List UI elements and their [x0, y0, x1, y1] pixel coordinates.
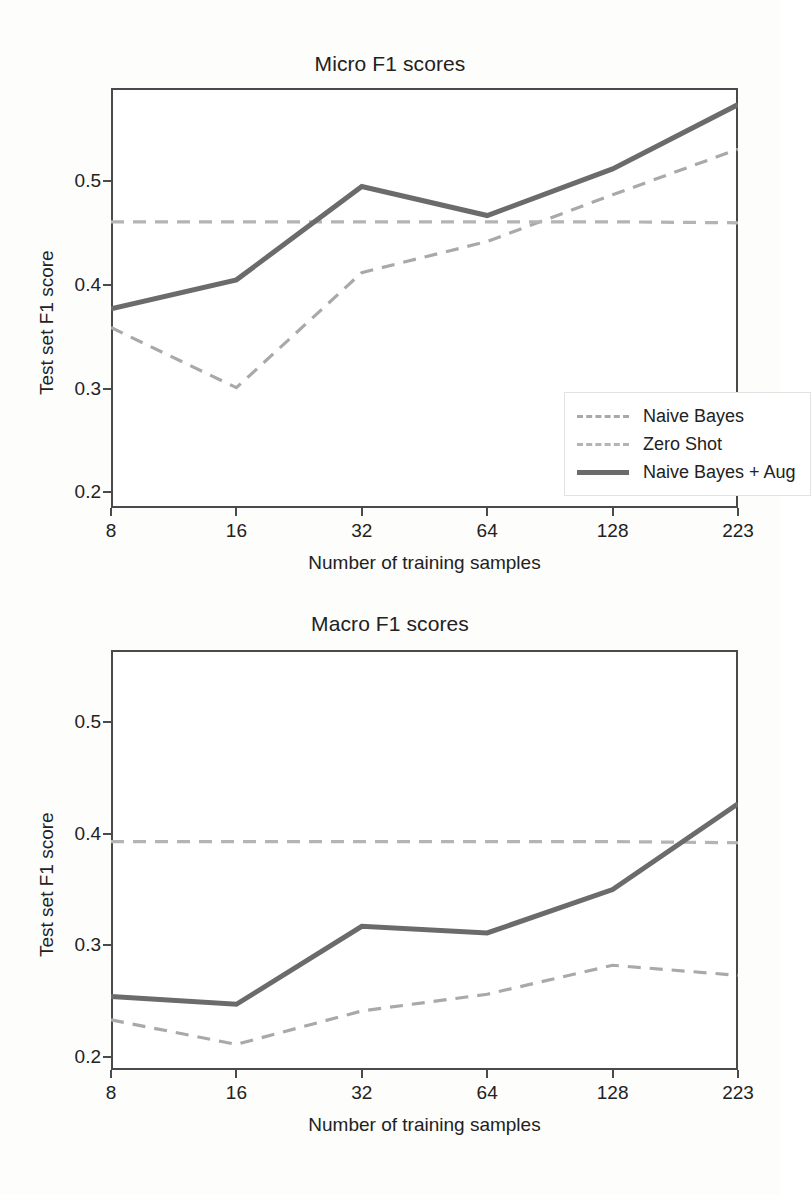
- x-tick-label-macro: 128: [597, 1082, 629, 1104]
- x-tick-label-micro: 223: [722, 520, 754, 542]
- legend-item-naive-bayes: Naive Bayes: [577, 402, 796, 430]
- x-tick-mark-macro: [612, 1070, 614, 1078]
- chart-micro-f1: Micro F1 scores Test set F1 score Number…: [0, 0, 780, 600]
- y-tick-mark-micro: [103, 180, 111, 182]
- x-tick-label-macro: 16: [226, 1082, 247, 1104]
- legend-item-naive-bayes-aug: Naive Bayes + Aug: [577, 458, 796, 486]
- chart-title-micro: Micro F1 scores: [0, 52, 780, 76]
- y-tick-label-micro: 0.5: [75, 170, 101, 192]
- x-tick-mark-micro: [737, 508, 739, 516]
- y-tick-mark-macro: [103, 1056, 111, 1058]
- y-tick-mark-micro: [103, 388, 111, 390]
- y-tick-mark-macro: [103, 833, 111, 835]
- x-tick-mark-macro: [486, 1070, 488, 1078]
- series-line-zero-shot: [111, 222, 738, 223]
- legend-line-icon-zero-shot: [577, 443, 629, 446]
- series-line-naive-bayes: [111, 149, 738, 388]
- x-axis-label-macro: Number of training samples: [111, 1114, 738, 1136]
- y-tick-mark-macro: [103, 944, 111, 946]
- legend-label-naive-bayes-aug: Naive Bayes + Aug: [643, 462, 796, 483]
- x-axis-label-micro: Number of training samples: [111, 552, 738, 574]
- x-tick-mark-micro: [612, 508, 614, 516]
- y-tick-label-micro: 0.2: [75, 481, 101, 503]
- x-tick-label-micro: 32: [351, 520, 372, 542]
- x-tick-mark-macro: [235, 1070, 237, 1078]
- chart-legend: Naive Bayes Zero Shot Naive Bayes + Aug: [564, 392, 811, 496]
- x-tick-label-micro: 64: [477, 520, 498, 542]
- legend-label-zero-shot: Zero Shot: [643, 434, 722, 455]
- x-tick-mark-macro: [361, 1070, 363, 1078]
- series-line-naive-bayes-aug: [111, 804, 738, 1005]
- plot-lines-macro: [111, 650, 738, 1070]
- chart-title-macro: Macro F1 scores: [0, 612, 780, 636]
- x-tick-label-macro: 8: [106, 1082, 117, 1104]
- series-line-naive-bayes: [111, 965, 738, 1044]
- y-tick-label-micro: 0.4: [75, 274, 101, 296]
- x-tick-label-macro: 64: [477, 1082, 498, 1104]
- x-tick-mark-micro: [486, 508, 488, 516]
- plot-area-micro: Number of training samples Naive Bayes Z…: [111, 88, 738, 508]
- y-tick-label-macro: 0.2: [75, 1046, 101, 1068]
- x-tick-mark-micro: [361, 508, 363, 516]
- x-tick-label-micro: 16: [226, 520, 247, 542]
- x-tick-mark-macro: [110, 1070, 112, 1078]
- y-tick-mark-macro: [103, 721, 111, 723]
- series-line-zero-shot: [111, 842, 738, 843]
- legend-label-naive-bayes: Naive Bayes: [643, 406, 744, 427]
- y-tick-label-macro: 0.5: [75, 711, 101, 733]
- legend-line-icon-naive-bayes-aug: [577, 470, 629, 475]
- x-tick-label-micro: 128: [597, 520, 629, 542]
- y-tick-mark-micro: [103, 284, 111, 286]
- legend-line-icon-naive-bayes: [577, 415, 629, 418]
- y-tick-label-macro: 0.3: [75, 934, 101, 956]
- x-tick-label-micro: 8: [106, 520, 117, 542]
- y-tick-mark-micro: [103, 491, 111, 493]
- x-tick-mark-micro: [235, 508, 237, 516]
- y-axis-label-micro: Test set F1 score: [36, 250, 58, 395]
- y-axis-label-macro: Test set F1 score: [36, 812, 58, 957]
- x-tick-label-macro: 32: [351, 1082, 372, 1104]
- y-tick-label-macro: 0.4: [75, 823, 101, 845]
- y-tick-label-micro: 0.3: [75, 378, 101, 400]
- plot-area-macro: Number of training samples 0.20.30.40.58…: [111, 650, 738, 1070]
- legend-item-zero-shot: Zero Shot: [577, 430, 796, 458]
- chart-macro-f1: Macro F1 scores Test set F1 score Number…: [0, 600, 780, 1195]
- x-tick-label-macro: 223: [722, 1082, 754, 1104]
- series-line-naive-bayes-aug: [111, 105, 738, 309]
- x-tick-mark-micro: [110, 508, 112, 516]
- x-tick-mark-macro: [737, 1070, 739, 1078]
